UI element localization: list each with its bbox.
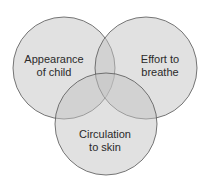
label-effort-line2: breathe: [141, 66, 179, 79]
label-effort-line1: Effort to: [141, 53, 179, 66]
venn-diagram: Appearance of child Effort to breathe Ci…: [0, 0, 209, 188]
label-circulation-line2: to skin: [79, 141, 131, 154]
label-effort: Effort to breathe: [141, 53, 179, 79]
label-circulation: Circulation to skin: [79, 128, 131, 154]
label-appearance-line1: Appearance: [24, 53, 83, 66]
label-appearance-line2: of child: [24, 66, 83, 79]
circle-circulation: [55, 73, 157, 175]
label-appearance: Appearance of child: [24, 53, 83, 79]
venn-circles: [0, 0, 209, 188]
label-circulation-line1: Circulation: [79, 128, 131, 141]
